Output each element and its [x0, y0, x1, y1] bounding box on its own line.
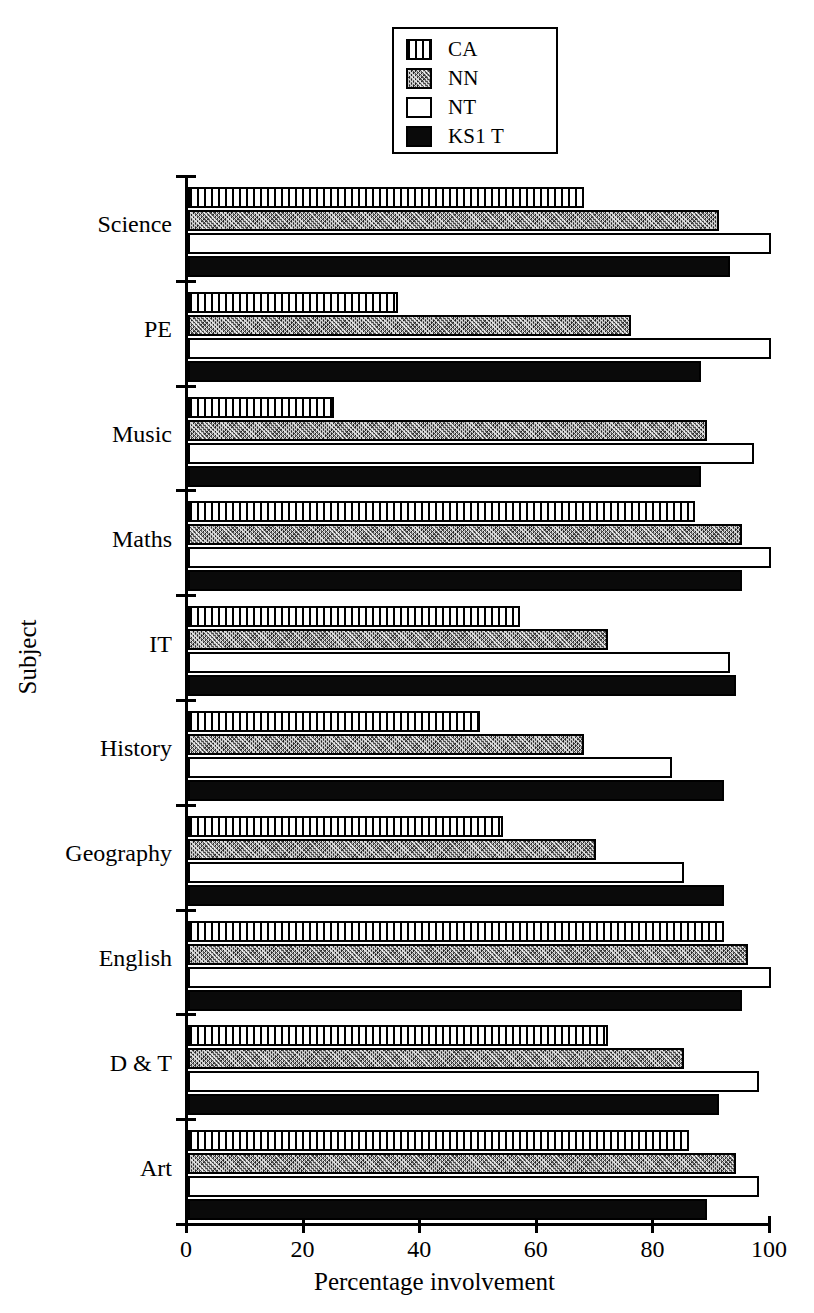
bar [188, 1025, 608, 1046]
bar [188, 629, 608, 650]
legend-swatch-ks1t-icon [406, 126, 432, 147]
legend-item-ca: CA [406, 35, 556, 64]
bar-group [188, 594, 791, 699]
legend-label-nt: NT [448, 97, 476, 118]
bar [188, 921, 724, 942]
legend-item-nt: NT [406, 93, 556, 122]
bar [188, 757, 672, 778]
bar [188, 466, 701, 487]
legend-swatch-ca-icon [406, 39, 432, 60]
bar [188, 652, 730, 673]
x-axis-title-text: Percentage involvement [314, 1268, 555, 1295]
y-category-label: English [0, 945, 172, 972]
legend-label-ca: CA [448, 39, 478, 60]
legend-swatch-nt-icon [406, 97, 432, 118]
bar [188, 233, 771, 254]
bar-group [188, 909, 791, 1014]
bar [188, 292, 398, 313]
bar-group [188, 1118, 791, 1223]
bar [188, 361, 701, 382]
bar-group [188, 699, 791, 804]
bar [188, 816, 503, 837]
x-tick-label-100: 100 [751, 1236, 787, 1263]
x-tick-label-80: 80 [640, 1236, 664, 1263]
bar [188, 839, 596, 860]
bar-chart-plot-area: 020406080100 SciencePEMusicMathsITHistor… [0, 170, 814, 1230]
bar [188, 944, 748, 965]
y-category-label: D & T [0, 1050, 172, 1077]
bar [188, 338, 771, 359]
bar [188, 1153, 736, 1174]
y-category-label: Maths [0, 526, 172, 553]
bar-group [188, 489, 791, 594]
bar [188, 315, 631, 336]
x-axis-title: Percentage involvement [0, 1268, 814, 1296]
bar [188, 443, 754, 464]
bar [188, 1176, 759, 1197]
bar [188, 397, 334, 418]
y-category-label: Music [0, 421, 172, 448]
bar [188, 711, 480, 732]
bar [188, 967, 771, 988]
bar [188, 1199, 707, 1220]
bar [188, 862, 684, 883]
y-category-label: Science [0, 211, 172, 238]
legend-item-ks1t: KS1 T [406, 122, 556, 151]
bar [188, 501, 695, 522]
bar [188, 675, 736, 696]
x-tick-label-40: 40 [407, 1236, 431, 1263]
bar [188, 1130, 689, 1151]
bar [188, 780, 724, 801]
bar-group [188, 1013, 791, 1118]
legend-swatch-nn-icon [406, 68, 432, 89]
y-tick-10 [176, 1223, 196, 1226]
y-category-label: PE [0, 316, 172, 343]
legend-label-ks1t: KS1 T [448, 126, 504, 147]
legend-label-nn: NN [448, 68, 479, 89]
bar [188, 210, 719, 231]
bar [188, 1048, 684, 1069]
x-tick-label-20: 20 [291, 1236, 315, 1263]
legend-item-nn: NN [406, 64, 556, 93]
bar [188, 885, 724, 906]
bar [188, 734, 584, 755]
bar-group [188, 385, 791, 490]
bar [188, 570, 742, 591]
bar-group [188, 804, 791, 909]
bar [188, 547, 771, 568]
bar [188, 1071, 759, 1092]
bar [188, 187, 584, 208]
bar-group [188, 175, 791, 280]
y-category-label: Geography [0, 840, 172, 867]
y-axis-title: Subject [14, 567, 42, 747]
x-tick-label-0: 0 [180, 1236, 192, 1263]
bar [188, 524, 742, 545]
bar [188, 1094, 719, 1115]
bar [188, 256, 730, 277]
bar [188, 606, 520, 627]
x-tick-label-60: 60 [524, 1236, 548, 1263]
bar-group [188, 280, 791, 385]
bar [188, 420, 707, 441]
bar [188, 990, 742, 1011]
y-category-label: Art [0, 1155, 172, 1182]
x-axis-line [185, 1223, 768, 1226]
legend: CA NN NT KS1 T [392, 27, 558, 154]
